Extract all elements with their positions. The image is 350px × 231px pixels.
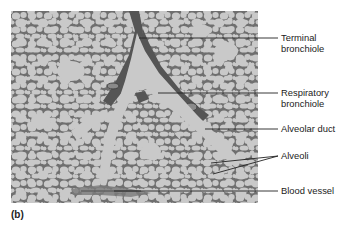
label-line: bronchiole [281, 98, 329, 109]
lung-micrograph-figure: Terminal bronchiole Respiratory bronchio… [0, 0, 350, 231]
label-respiratory-bronchiole: Respiratory bronchiole [281, 87, 329, 109]
label-line: Terminal [281, 32, 324, 43]
label-terminal-bronchiole: Terminal bronchiole [281, 32, 324, 54]
label-line: Respiratory [281, 87, 329, 98]
label-blood-vessel: Blood vessel [281, 185, 334, 196]
label-alveoli: Alveoli [281, 150, 309, 161]
panel-label: (b) [11, 209, 24, 220]
lung-tissue-micrograph [11, 11, 258, 203]
label-line: bronchiole [281, 43, 324, 54]
label-alveolar-duct: Alveolar duct [281, 123, 335, 134]
